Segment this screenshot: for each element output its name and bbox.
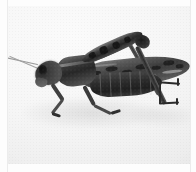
right-margin-rule bbox=[190, 0, 191, 172]
screenshot-root: Black and white photograph of a grasshop… bbox=[0, 0, 196, 172]
hind-tarsus-spine bbox=[176, 98, 178, 105]
grasshopper-photograph bbox=[8, 6, 190, 164]
hind-tarsus-shaft bbox=[159, 82, 161, 104]
cast-shadow-rear bbox=[128, 106, 190, 126]
hind-tarsus-claw bbox=[177, 78, 179, 86]
mouthparts bbox=[34, 77, 48, 88]
